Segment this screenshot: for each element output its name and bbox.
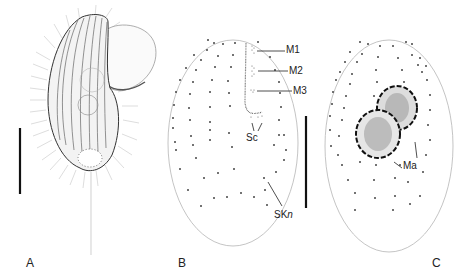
caudal-zone	[78, 149, 102, 167]
figure-canvas	[0, 0, 466, 273]
membranelles	[250, 45, 262, 117]
panel-a-cell	[30, 5, 156, 255]
label-skn-prefix: SK	[274, 209, 287, 220]
basal-bodies-b	[172, 39, 287, 207]
label-skn-suffix: n	[287, 209, 293, 220]
cell-body	[48, 15, 119, 171]
label-ma: Ma	[403, 161, 417, 171]
label-skn: SKn	[274, 210, 293, 220]
attached-vesicle	[106, 25, 156, 91]
label-m1: M1	[286, 45, 300, 55]
macronucleus	[356, 86, 417, 158]
panel-c-cell	[325, 40, 453, 252]
oral-kinety	[245, 43, 262, 114]
panel-label-b: B	[178, 256, 186, 270]
leader-lines	[252, 51, 292, 206]
panel-label-c: C	[432, 256, 441, 270]
panel-label-a: A	[26, 256, 34, 270]
label-sc: Sc	[246, 133, 258, 143]
label-m2: M2	[289, 66, 303, 76]
label-m3: M3	[293, 86, 307, 96]
